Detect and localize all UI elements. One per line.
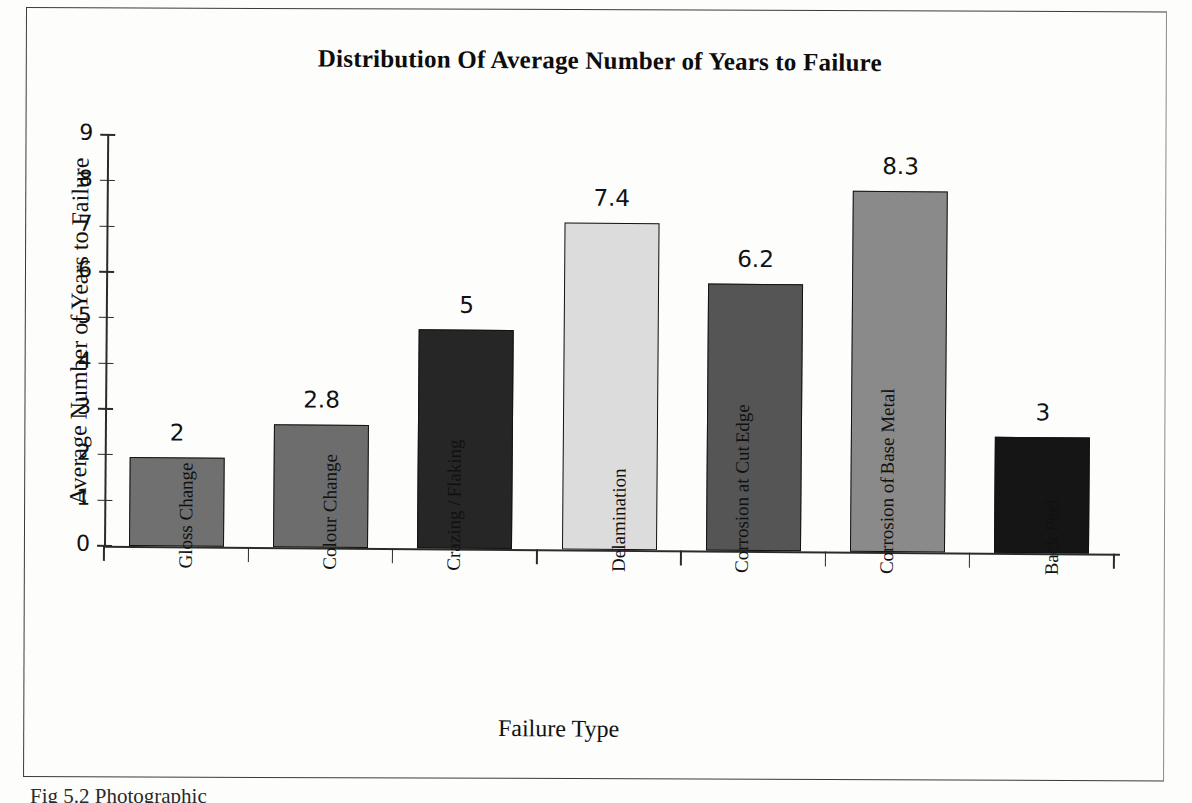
x-axis-tick: [247, 547, 249, 562]
x-axis-category-label: Crazing /Flaking: [443, 439, 466, 570]
category-label-line: Crazing /: [443, 500, 466, 570]
x-axis-category-labels: Gloss ChangeColour ChangeCrazing /Flakin…: [4, 0, 1192, 8]
x-axis-ticks: [4, 0, 1192, 8]
x-axis-category-label: Corrosion at CutEdge: [731, 404, 754, 573]
x-axis-tick: [103, 546, 105, 561]
category-label-line: Base Metal: [876, 388, 899, 474]
bar-value-label: 6.2: [688, 245, 823, 272]
category-label-line: Gloss Change: [175, 462, 198, 568]
y-axis-title: Average Number of Years to Failure: [65, 121, 95, 541]
x-axis-category-label: Delamination: [608, 468, 631, 572]
bar-value-label: 5: [399, 291, 534, 318]
category-label-line: Corrosion of: [875, 477, 898, 574]
y-axis-ticks: 0123456789: [4, 0, 1192, 8]
chart-canvas: Distribution Of Average Number of Years …: [0, 0, 1192, 803]
x-axis-tick: [536, 549, 538, 564]
x-axis-title: Failure Type: [0, 711, 1119, 747]
x-axis-tick: [680, 550, 682, 565]
chart-title: Distribution Of Average Number of Years …: [4, 43, 1192, 80]
x-axis-tick: [825, 552, 827, 567]
figure-caption: Fig 5.2 Photographic: [30, 784, 207, 803]
x-axis-category-label: Corrosion ofBase Metal: [875, 388, 898, 574]
bar-value-label: 8.3: [833, 153, 968, 180]
category-label-line: Delamination: [608, 468, 631, 572]
x-axis-tick: [969, 553, 971, 568]
category-label-line: Edge: [732, 404, 754, 443]
x-axis-category-label: Colour Change: [319, 454, 342, 570]
figure-page: Distribution Of Average Number of Years …: [0, 0, 1192, 803]
bar-value-label: 7.4: [544, 185, 679, 212]
bar-value-label: 2: [109, 419, 244, 446]
bar-value-label: 2.8: [254, 386, 389, 413]
bar: [850, 191, 948, 553]
category-label-line: Corrosion at Cut: [731, 446, 754, 573]
category-label-line: Flaking: [443, 439, 465, 497]
x-axis-tick: [1113, 554, 1115, 569]
category-label-line: Back Peel: [1041, 499, 1064, 576]
category-label-line: Colour Change: [319, 454, 342, 570]
x-axis-tick: [392, 548, 394, 563]
x-axis-category-label: Back Peel: [1041, 499, 1064, 576]
bar-value-label: 3: [975, 398, 1110, 425]
bar: [706, 283, 803, 551]
x-axis-category-label: Gloss Change: [175, 462, 198, 568]
